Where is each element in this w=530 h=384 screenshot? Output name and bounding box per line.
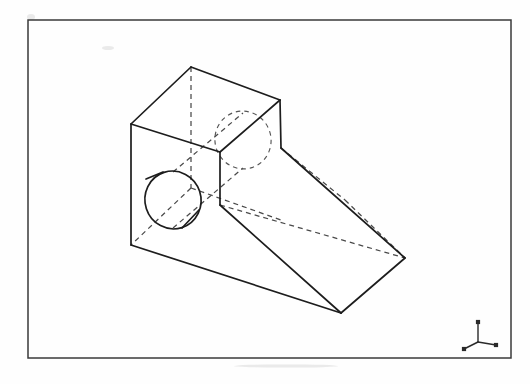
wedge-block-with-through-hole xyxy=(131,67,405,313)
axis-tip-x-axis-left xyxy=(462,347,466,351)
technical-drawing-page xyxy=(0,0,530,384)
right-vertical-edge xyxy=(280,100,281,148)
axis-tip-y-axis-right xyxy=(494,343,498,347)
axis-tip-z-axis-up xyxy=(476,320,480,324)
axis-leg-y-axis-right xyxy=(478,342,496,345)
isometric-axis-triad xyxy=(462,320,498,351)
isometric-drawing-canvas xyxy=(0,0,530,384)
solid-face-fills xyxy=(131,67,405,313)
